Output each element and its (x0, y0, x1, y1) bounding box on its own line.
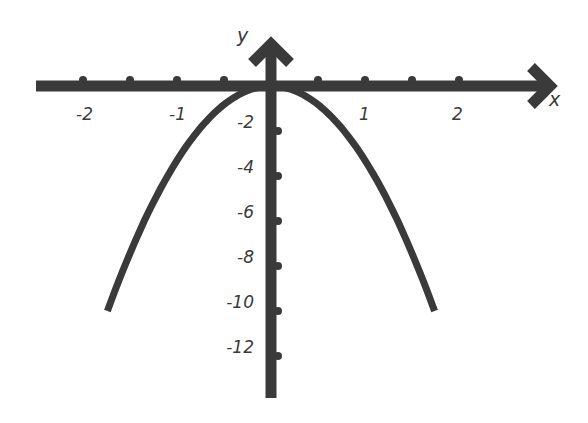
x-tick-label: -1 (169, 104, 186, 124)
y-tick-dot (274, 352, 282, 360)
x-tick-dot (408, 76, 416, 84)
y-tick-dot (274, 172, 282, 180)
x-tick-dot (126, 76, 134, 84)
y-tick-label: -12 (226, 337, 254, 357)
x-tick-dot (314, 76, 322, 84)
y-tick-label: -6 (237, 202, 254, 222)
y-tick-dot (274, 307, 282, 315)
y-tick-dot (274, 217, 282, 225)
y-tick-dot (274, 127, 282, 135)
y-tick-label: -2 (237, 112, 254, 132)
x-tick-label: 1 (359, 104, 370, 124)
x-tick-dot (361, 76, 369, 84)
x-tick-dot (173, 76, 181, 84)
y-tick-dot (274, 262, 282, 270)
x-tick-label: 2 (452, 104, 463, 124)
x-tick-dot (79, 76, 87, 84)
y-axis-label: y (236, 24, 249, 46)
x-tick-label: -2 (76, 104, 93, 124)
parabola-graph: x y -2 -1 1 2 -2 -4 -6 -8 -10 -12 (0, 0, 588, 423)
x-tick-dot (455, 76, 463, 84)
y-tick-label: -8 (237, 247, 254, 267)
y-tick-label: -4 (237, 157, 254, 177)
y-tick-label: -10 (226, 292, 254, 312)
x-tick-dot (220, 76, 228, 84)
x-axis-label: x (548, 88, 561, 110)
